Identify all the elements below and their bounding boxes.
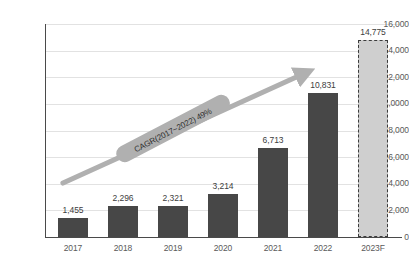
bar-value-label: 2,321 bbox=[142, 193, 204, 203]
x-axis-tick-label: 2020 bbox=[198, 243, 248, 253]
bar[interactable] bbox=[308, 93, 338, 237]
bar-value-label: 3,214 bbox=[192, 181, 254, 191]
bar[interactable] bbox=[208, 194, 238, 237]
bar[interactable] bbox=[108, 206, 138, 237]
x-axis-tick-label: 2022 bbox=[298, 243, 348, 253]
x-axis-tick-label: 2021 bbox=[248, 243, 298, 253]
bar-value-label: 6,713 bbox=[242, 135, 304, 145]
bar-slot: 14,775 bbox=[348, 24, 398, 237]
bar-value-label: 10,831 bbox=[292, 80, 354, 90]
bar[interactable] bbox=[258, 148, 288, 237]
bar-slot: 3,214 bbox=[198, 24, 248, 237]
bar-slot: 2,296 bbox=[98, 24, 148, 237]
x-axis-tick-label: 2019 bbox=[148, 243, 198, 253]
bar-slot: 6,713 bbox=[248, 24, 298, 237]
x-axis-tick-label: 2017 bbox=[48, 243, 98, 253]
x-axis-tick-label: 2023F bbox=[348, 243, 398, 253]
bar-value-label: 14,775 bbox=[342, 27, 404, 37]
bar-chart: 02,0004,0006,0008,0001,000012,00014,0001… bbox=[0, 0, 409, 267]
bar-value-label: 1,455 bbox=[42, 205, 104, 215]
bar-forecast[interactable] bbox=[358, 40, 388, 237]
bar-slot: 1,455 bbox=[48, 24, 98, 237]
x-axis-tick-label: 2018 bbox=[98, 243, 148, 253]
x-axis-line bbox=[45, 237, 402, 238]
bar-slot: 10,831 bbox=[298, 24, 348, 237]
bar[interactable] bbox=[158, 206, 188, 237]
bar[interactable] bbox=[58, 218, 88, 237]
plot-area: 1,4552,2962,3213,2146,71310,83114,775 bbox=[45, 24, 402, 237]
